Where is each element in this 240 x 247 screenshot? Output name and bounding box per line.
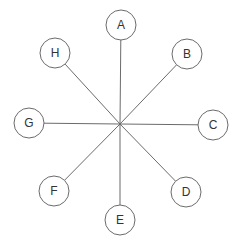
node-g-label: G — [24, 116, 33, 130]
node-f[interactable]: F — [39, 176, 69, 206]
node-d[interactable]: D — [171, 177, 201, 207]
node-b[interactable]: B — [172, 39, 202, 69]
node-d-label: D — [182, 185, 191, 199]
node-a-label: A — [117, 18, 125, 32]
edge-c — [120, 124, 198, 125]
node-h[interactable]: H — [40, 38, 70, 68]
node-a[interactable]: A — [106, 10, 136, 40]
node-e-label: E — [116, 213, 124, 227]
node-f-label: F — [50, 184, 57, 198]
node-b-label: B — [183, 47, 191, 61]
edge-f — [65, 124, 121, 180]
node-h-label: H — [51, 46, 60, 60]
node-c[interactable]: C — [198, 110, 228, 140]
edges — [44, 40, 198, 205]
edge-a — [120, 40, 121, 124]
node-e[interactable]: E — [105, 205, 135, 235]
star-diagram: A B C D E F G H — [0, 0, 240, 247]
node-c-label: C — [209, 118, 218, 132]
edge-h — [65, 64, 120, 124]
edge-g — [44, 123, 120, 124]
edge-d — [120, 124, 176, 181]
node-g[interactable]: G — [14, 108, 44, 138]
edge-b — [120, 65, 177, 124]
